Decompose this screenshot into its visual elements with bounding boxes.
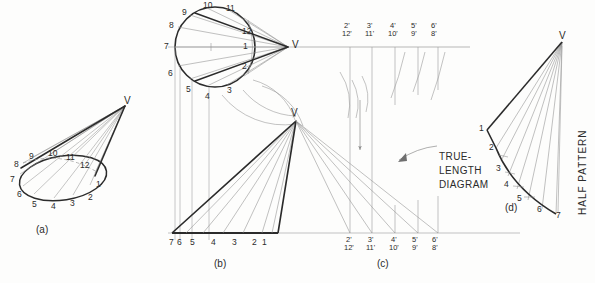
tl-ordinate-lines bbox=[350, 47, 438, 233]
panel-b-point-4: 4 bbox=[205, 92, 210, 101]
tl-top-label-6-lower: 8' bbox=[431, 30, 437, 38]
panel-a-point-2: 2 bbox=[88, 193, 93, 202]
true-length-annotation-line-1: TRUE- bbox=[439, 152, 472, 162]
panel-b-base-label-2: 2 bbox=[252, 238, 257, 247]
panel-d-point-2: 2 bbox=[489, 143, 494, 152]
front-view-element-lines bbox=[186, 121, 296, 233]
panel-b-point-11: 11 bbox=[226, 4, 235, 13]
panel-c-true-length-diagram bbox=[300, 47, 470, 233]
tl-top-label-4: 4' 10' bbox=[388, 22, 398, 38]
panel-b-front-view bbox=[168, 121, 520, 233]
tl-bottom-label-6: 6' 8' bbox=[432, 236, 438, 252]
tl-bottom-label-4: 4' 10' bbox=[389, 236, 399, 252]
tl-bottom-label-3-lower: 11' bbox=[366, 244, 375, 252]
panel-a-point-3: 3 bbox=[70, 199, 75, 208]
pattern-curve-ticks bbox=[499, 155, 535, 197]
top-view-projectors bbox=[175, 47, 209, 240]
top-view-element-lines bbox=[175, 8, 288, 86]
panel-b-point-5: 5 bbox=[186, 85, 191, 94]
pattern-boundary bbox=[487, 42, 562, 214]
panel-c-caption: (c) bbox=[377, 259, 389, 269]
panel-b-point-3: 3 bbox=[227, 86, 232, 95]
panel-d-point-1: 1 bbox=[479, 124, 484, 133]
tl-top-label-5: 5' 9' bbox=[411, 22, 417, 38]
panel-d-point-5: 5 bbox=[517, 194, 522, 203]
panel-b-point-7: 7 bbox=[164, 42, 169, 51]
tl-top-label-2-lower: 12' bbox=[342, 30, 352, 38]
tl-top-label-2: 2' 12' bbox=[342, 22, 352, 38]
true-length-annotation-line-3: DIAGRAM bbox=[439, 180, 488, 190]
panel-b-point-9: 9 bbox=[182, 8, 187, 17]
tl-bottom-label-2-lower: 12' bbox=[344, 244, 354, 252]
panel-b-base-label-6: 6 bbox=[177, 238, 182, 247]
panel-a-point-11: 11 bbox=[66, 153, 75, 162]
panel-b-base-label-7: 7 bbox=[169, 238, 174, 247]
panel-a-point-9: 9 bbox=[29, 152, 34, 161]
panel-d-vertex-label: V bbox=[559, 31, 566, 41]
tl-top-label-5-lower: 9' bbox=[411, 30, 417, 38]
tl-bottom-label-4-lower: 10' bbox=[389, 244, 399, 252]
panel-d-point-3: 3 bbox=[496, 164, 501, 173]
panel-b-point-1: 1 bbox=[243, 42, 248, 51]
panel-b-caption: (b) bbox=[214, 259, 226, 269]
tl-bottom-label-3: 3' 11' bbox=[366, 236, 375, 252]
panel-a-point-4: 4 bbox=[51, 202, 56, 211]
tl-top-label-6: 6' 8' bbox=[431, 22, 437, 38]
panel-b-point-6: 6 bbox=[168, 69, 173, 78]
panel-a-point-12: 12 bbox=[80, 161, 89, 170]
panel-a-point-5: 5 bbox=[32, 200, 37, 209]
panel-b-base-label-5: 5 bbox=[190, 238, 195, 247]
panel-d-half-pattern bbox=[487, 42, 562, 214]
tl-bottom-label-6-lower: 8' bbox=[432, 244, 438, 252]
panel-d-point-7: 7 bbox=[556, 211, 561, 220]
panel-b-point-12: 12 bbox=[242, 27, 251, 36]
panel-a-point-7: 7 bbox=[10, 175, 15, 184]
panel-b-base-label-4: 4 bbox=[211, 238, 216, 247]
tl-top-label-3: 3' 11' bbox=[365, 22, 374, 38]
panel-d-point-4: 4 bbox=[504, 180, 509, 189]
panel-b-top-view bbox=[168, 7, 300, 240]
tl-top-label-3-lower: 11' bbox=[365, 30, 374, 38]
panel-a-vertex-label: V bbox=[124, 96, 131, 106]
panel-a-point-6: 6 bbox=[17, 190, 22, 199]
tl-top-label-4-lower: 10' bbox=[388, 30, 398, 38]
half-pattern-note: HALF PATTERN bbox=[578, 129, 588, 215]
panel-b-base-label-3: 3 bbox=[232, 238, 237, 247]
panel-b-point-10: 10 bbox=[203, 1, 212, 10]
drawing-sheet: V 1 2 3 4 5 6 7 8 9 10 11 12 (a) 1 12 2 … bbox=[0, 0, 595, 283]
panel-a-point-10: 10 bbox=[48, 149, 57, 158]
panel-a-point-1: 1 bbox=[96, 180, 101, 189]
true-length-annotation-line-2: LENGTH bbox=[439, 166, 482, 176]
panel-a-caption: (a) bbox=[36, 225, 48, 235]
panel-b-point-2: 2 bbox=[242, 62, 247, 71]
panel-b-point-8: 8 bbox=[169, 21, 174, 30]
panel-a-point-8: 8 bbox=[14, 160, 19, 169]
panel-b-top-vertex-label: V bbox=[292, 40, 299, 50]
front-view-to-tl-rays bbox=[296, 121, 438, 233]
panel-d-caption: (d) bbox=[505, 203, 517, 213]
panel-d-point-6: 6 bbox=[537, 205, 542, 214]
panel-b-base-label-1: 1 bbox=[262, 238, 267, 247]
tl-bottom-label-5-lower: 9' bbox=[412, 244, 418, 252]
tl-bottom-label-2: 2' 12' bbox=[344, 236, 354, 252]
tl-annotation-arrowhead bbox=[398, 153, 407, 162]
tl-bottom-label-5: 5' 9' bbox=[412, 236, 418, 252]
panel-b-front-vertex-label: V bbox=[291, 108, 298, 118]
panel-a-contour bbox=[21, 106, 125, 176]
